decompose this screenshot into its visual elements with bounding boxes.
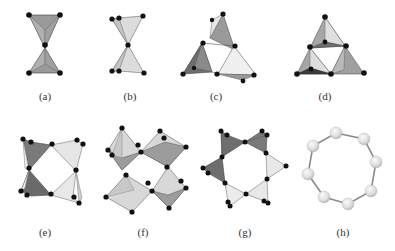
- panel-label-e: (e): [39, 226, 51, 238]
- structure-h: [302, 127, 382, 210]
- structure-c: [180, 11, 256, 83]
- structure-f: [103, 125, 188, 214]
- panel-label-h: (h): [337, 226, 350, 238]
- panel-label-a: (a): [39, 90, 51, 102]
- structures-svg: [0, 0, 395, 251]
- panel-label-f: (f): [138, 226, 149, 238]
- structure-d: [294, 14, 367, 77]
- structure-a: [26, 12, 63, 76]
- panel-label-b: (b): [124, 90, 137, 102]
- panel-label-c: (c): [210, 90, 222, 102]
- figure-canvas: (a) (b) (c) (d) (e) (f) (g) (h): [0, 0, 395, 251]
- panel-label-d: (d): [319, 90, 332, 102]
- structure-b: [109, 13, 146, 75]
- panel-label-g: (g): [239, 226, 252, 238]
- structure-e: [18, 136, 85, 205]
- structure-g: [201, 129, 289, 209]
